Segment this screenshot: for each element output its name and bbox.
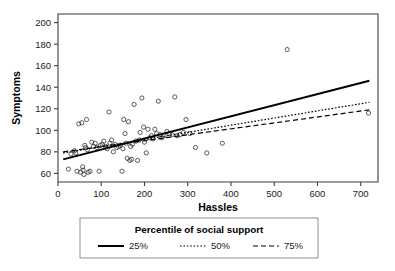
x-tick-label: 100 <box>93 188 109 199</box>
data-point <box>205 151 209 155</box>
x-tick-label: 600 <box>310 188 326 199</box>
scatter-plot: 6080100120140160180200 01002003004005006… <box>0 0 395 271</box>
data-point <box>220 141 224 145</box>
y-tick-label: 60 <box>40 168 51 179</box>
x-tick-label: 200 <box>137 188 153 199</box>
data-point <box>144 151 148 155</box>
data-point <box>146 127 150 131</box>
data-point <box>97 169 101 173</box>
data-point <box>285 47 289 51</box>
data-point <box>111 150 115 154</box>
y-axis-title: Symptoms <box>10 71 22 125</box>
y-tick-label: 140 <box>35 82 51 93</box>
scatter-points-group <box>66 47 370 176</box>
y-tick-label: 120 <box>35 103 51 114</box>
data-point <box>140 96 144 100</box>
data-point <box>123 131 127 135</box>
data-point <box>122 117 126 121</box>
x-axis-tick-labels: 0100200300400500600700 <box>55 188 368 199</box>
data-point <box>142 125 146 129</box>
x-tick-label: 300 <box>180 188 196 199</box>
data-point <box>156 99 160 103</box>
legend-title: Percentile of social support <box>135 224 264 235</box>
x-axis-tick-marks <box>58 182 361 186</box>
x-tick-label: 400 <box>223 188 239 199</box>
data-point <box>132 102 136 106</box>
data-point <box>153 127 157 131</box>
data-point <box>193 145 197 149</box>
data-point <box>184 117 188 121</box>
chart-figure: 6080100120140160180200 01002003004005006… <box>0 0 395 271</box>
regression-line-25pct <box>63 81 369 160</box>
legend-label-25pct: 25% <box>129 240 149 251</box>
regression-line-75pct <box>63 110 369 152</box>
data-point <box>120 169 124 173</box>
data-point <box>126 120 130 124</box>
data-point <box>135 158 139 162</box>
x-axis-title: Hassles <box>198 201 238 213</box>
y-tick-label: 80 <box>40 146 51 157</box>
data-point <box>366 111 370 115</box>
legend-label-50pct: 50% <box>211 240 231 251</box>
legend-entries-group: 25%50%75% <box>98 240 304 251</box>
y-tick-label: 160 <box>35 60 51 71</box>
y-axis-tick-labels: 6080100120140160180200 <box>35 17 51 179</box>
data-point <box>84 117 88 121</box>
y-axis-tick-marks <box>54 23 58 174</box>
x-tick-label: 0 <box>55 188 60 199</box>
y-tick-label: 100 <box>35 125 51 136</box>
y-tick-label: 180 <box>35 39 51 50</box>
data-point <box>173 95 177 99</box>
legend-label-75pct: 75% <box>284 240 304 251</box>
regression-lines-group <box>63 81 369 160</box>
data-point <box>66 167 70 171</box>
data-point <box>121 147 125 151</box>
plot-frame <box>58 14 378 182</box>
data-point <box>69 152 73 156</box>
x-tick-label: 500 <box>266 188 282 199</box>
data-point <box>107 110 111 114</box>
data-point <box>82 172 86 176</box>
data-point <box>138 130 142 134</box>
x-tick-label: 700 <box>353 188 369 199</box>
y-tick-label: 200 <box>35 17 51 28</box>
